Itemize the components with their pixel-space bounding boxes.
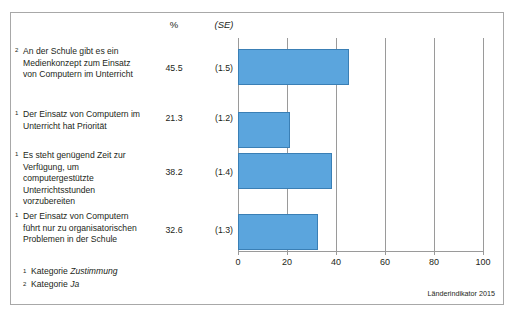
footnote-marker: 1 xyxy=(23,265,26,278)
x-axis-line xyxy=(238,251,484,252)
gridline xyxy=(483,38,484,251)
category-label: Der Einsatz von Computern im Unterricht … xyxy=(23,109,145,132)
value-percent: 32.6 xyxy=(151,225,197,235)
footnote-list: 1Kategorie Zustimmung2Kategorie Ja xyxy=(23,265,117,290)
table-header: % (SE) xyxy=(11,19,503,35)
value-percent: 21.3 xyxy=(151,113,197,123)
category-label: Der Einsatz von Computern führt nur zu o… xyxy=(23,211,145,246)
footnote-text: Kategorie xyxy=(31,266,70,276)
column-header-se: (SE) xyxy=(201,19,247,30)
category-label: An der Schule gibt es ein Medienkonzept … xyxy=(23,46,145,81)
x-axis-tick-label: 0 xyxy=(218,257,258,267)
gridline xyxy=(434,38,435,251)
category-label: Es steht genügend Zeit zur Verfügung, um… xyxy=(23,150,145,208)
x-axis-tick xyxy=(483,251,484,255)
bar xyxy=(238,153,332,189)
x-axis-tick xyxy=(336,251,337,255)
footnote-text: Kategorie xyxy=(31,279,70,289)
bar xyxy=(238,214,318,250)
x-axis-tick-label: 100 xyxy=(463,257,503,267)
x-axis-tick-label: 60 xyxy=(365,257,405,267)
x-axis-tick-label: 20 xyxy=(267,257,307,267)
value-percent: 45.5 xyxy=(151,63,197,73)
bar xyxy=(238,49,349,85)
footnote-category-name: Zustimmung xyxy=(70,266,117,276)
category-footnote-marker: 2 xyxy=(15,46,18,54)
x-axis-tick xyxy=(434,251,435,255)
category-footnote-marker: 1 xyxy=(15,109,18,117)
category-footnote-marker: 1 xyxy=(15,211,18,219)
footnote: 2Kategorie Ja xyxy=(23,278,117,291)
category-footnote-marker: 1 xyxy=(15,150,18,158)
x-axis-tick-label: 40 xyxy=(316,257,356,267)
footnote-marker: 2 xyxy=(23,278,26,291)
x-axis-tick xyxy=(287,251,288,255)
source-note: Länderindikator 2015 xyxy=(427,289,495,298)
chart-figure: % (SE) 2An der Schule gibt es ein Medien… xyxy=(10,12,504,305)
x-axis-tick-label: 80 xyxy=(414,257,454,267)
plot-area: 020406080100 xyxy=(238,38,483,251)
x-axis-tick xyxy=(385,251,386,255)
footnote-category-name: Ja xyxy=(70,279,79,289)
x-axis-tick xyxy=(238,251,239,255)
footnote: 1Kategorie Zustimmung xyxy=(23,265,117,278)
gridline xyxy=(385,38,386,251)
column-header-percent: % xyxy=(151,19,197,30)
bar xyxy=(238,112,290,148)
value-percent: 38.2 xyxy=(151,167,197,177)
